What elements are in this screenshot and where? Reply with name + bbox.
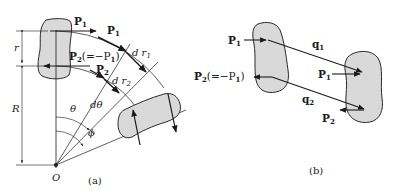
body-1-blob (38, 19, 72, 79)
caption-a: (a) (88, 175, 102, 186)
tangent-p1-arrow (98, 37, 126, 51)
panel-a: P1 P1 P2(=−P1) P2 d r1 d r2 r R θ dθ ϕ O… (11, 15, 186, 186)
label-origin: O (52, 172, 60, 183)
panel-b: P1 P2(=−P1) q1 q2 P1 P2 (b) (194, 22, 383, 176)
body-2-left-blob (253, 22, 289, 92)
label-r: r (14, 42, 20, 53)
label-p2-tangent: P2 (96, 63, 109, 77)
label-phi: ϕ (88, 127, 95, 138)
label-dtheta: dθ (90, 99, 102, 110)
label-p1-top: P1 (74, 15, 87, 29)
body-1-rotated-blob (118, 93, 180, 137)
label-p2-equals-neg-p1: P2(=−P1) (69, 50, 120, 64)
label-q1: q1 (312, 38, 324, 52)
figure-canvas: P1 P1 P2(=−P1) P2 d r1 d r2 r R θ dθ ϕ O… (0, 0, 395, 191)
arc-phi (56, 131, 83, 146)
label-R: R (11, 103, 20, 114)
label-p2-right: P2 (322, 112, 335, 126)
label-q2: q2 (302, 93, 314, 107)
caption-b: (b) (309, 165, 323, 176)
label-p1-tangent: P1 (107, 24, 120, 38)
label-p1-right: P1 (318, 68, 331, 82)
label-theta: θ (70, 103, 76, 114)
label-p1-left: P1 (228, 34, 241, 48)
label-p2-left: P2(=−P1) (194, 70, 245, 84)
body-2-right-blob (345, 51, 383, 122)
origin-point (54, 163, 58, 167)
